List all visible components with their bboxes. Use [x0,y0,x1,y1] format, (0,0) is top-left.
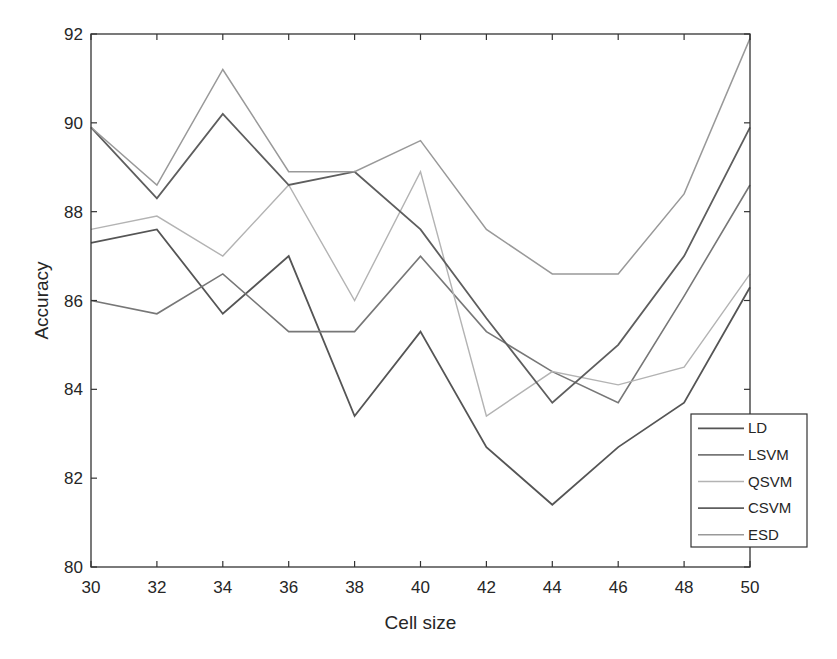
y-axis-label: Accuracy [31,261,52,340]
x-tick-label: 50 [741,578,760,597]
y-tick-label: 88 [64,203,83,222]
legend-label: QSVM [748,473,792,490]
x-axis-label: Cell size [385,612,457,633]
legend-label: LSVM [748,446,789,463]
legend: LDLSVMQSVMCSVMESD [691,414,807,547]
y-tick-label: 92 [64,25,83,44]
y-tick-label: 86 [64,292,83,311]
x-tick-label: 34 [213,578,232,597]
chart-canvas: 303234363840424446485080828486889092 LDL… [0,0,837,659]
x-tick-label: 40 [411,578,430,597]
series-line-csvm [91,114,750,403]
series-line-ld [91,229,750,504]
x-tick-label: 32 [147,578,166,597]
axes: 303234363840424446485080828486889092 [64,25,759,597]
x-tick-label: 48 [675,578,694,597]
x-tick-label: 42 [477,578,496,597]
x-tick-label: 46 [609,578,628,597]
y-tick-label: 80 [64,558,83,577]
y-tick-label: 90 [64,114,83,133]
legend-label: ESD [748,526,779,543]
legend-label: LD [748,419,767,436]
legend-label: CSVM [748,499,791,516]
y-tick-label: 84 [64,380,83,399]
x-tick-label: 38 [345,578,364,597]
x-tick-label: 30 [82,578,101,597]
series-lines [91,38,750,504]
y-tick-label: 82 [64,469,83,488]
x-tick-label: 36 [279,578,298,597]
line-chart: 303234363840424446485080828486889092 LDL… [0,0,837,659]
x-tick-label: 44 [543,578,562,597]
series-line-lsvm [91,185,750,403]
